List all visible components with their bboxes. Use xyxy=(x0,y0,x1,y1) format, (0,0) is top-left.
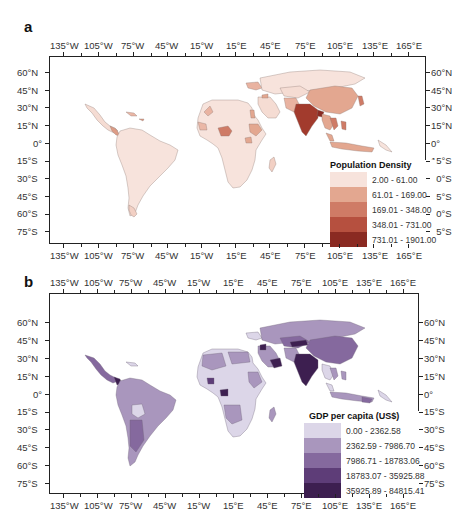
tick-mark xyxy=(419,483,423,484)
x-tick-label: 135°W xyxy=(50,277,79,288)
x-tick-label: 75°E xyxy=(291,277,312,288)
legend-swatch xyxy=(304,468,341,483)
y-tick-label: 30°N xyxy=(17,353,38,364)
tick-mark xyxy=(357,244,358,247)
x-tick-label: 105°E xyxy=(322,500,348,511)
tick-mark xyxy=(151,244,152,247)
x-tick-label: 15°W xyxy=(187,500,210,511)
x-tick-label: 75°W xyxy=(119,277,142,288)
panel-b-legend: GDP per capita (US$) 0.00 - 2362.58 2362… xyxy=(304,411,424,498)
x-tick-label: 75°E xyxy=(291,500,312,511)
tick-mark xyxy=(45,483,49,484)
tick-mark xyxy=(419,447,423,448)
legend-swatch xyxy=(304,453,341,468)
tick-mark xyxy=(45,72,49,73)
tick-mark xyxy=(131,289,132,293)
legend-label: 18783.07 - 35925.88 xyxy=(346,471,424,481)
tick-mark xyxy=(386,494,387,497)
tick-mark xyxy=(216,494,217,497)
tick-mark xyxy=(426,90,430,91)
y-tick-label: 60°S xyxy=(424,460,445,471)
tick-mark xyxy=(373,244,374,248)
x-tick-label: 45°E xyxy=(257,277,278,288)
tick-mark xyxy=(267,494,268,498)
tick-mark xyxy=(97,289,98,293)
tick-mark xyxy=(369,289,370,293)
x-tick-label: 45°W xyxy=(153,500,176,511)
tick-mark xyxy=(419,322,423,323)
tick-mark xyxy=(148,290,149,293)
tick-mark xyxy=(426,214,430,215)
tick-mark xyxy=(45,447,49,448)
tick-mark xyxy=(269,52,270,56)
tick-mark xyxy=(419,340,423,341)
tick-mark xyxy=(98,244,99,248)
tick-mark xyxy=(369,494,370,498)
x-tick-label: 75°W xyxy=(119,500,142,511)
tick-mark xyxy=(267,289,268,293)
tick-mark xyxy=(133,244,134,248)
tick-mark xyxy=(426,161,430,162)
tick-mark xyxy=(45,125,49,126)
tick-mark xyxy=(45,161,49,162)
tick-mark xyxy=(182,290,183,293)
tick-mark xyxy=(287,53,288,56)
tick-mark xyxy=(287,244,288,247)
tick-mark xyxy=(167,244,168,248)
tick-mark xyxy=(63,52,64,56)
tick-mark xyxy=(201,244,202,248)
legend-item: 2362.59 - 7986.70 xyxy=(304,438,424,453)
tick-mark xyxy=(148,494,149,497)
tick-mark xyxy=(335,289,336,293)
y-tick-label: 45°N xyxy=(424,335,445,346)
tick-mark xyxy=(63,494,64,498)
tick-mark xyxy=(391,53,392,56)
legend-label: 2362.59 - 7986.70 xyxy=(346,441,415,451)
y-tick-label: 30°S xyxy=(17,424,38,435)
legend-item: 7986.71 - 18783.06 xyxy=(304,453,424,468)
y-tick-label: 75°S xyxy=(17,478,38,489)
tick-mark xyxy=(116,244,117,247)
tick-mark xyxy=(318,494,319,497)
y-tick-label: 15°S xyxy=(17,406,38,417)
tick-mark xyxy=(352,290,353,293)
tick-mark xyxy=(114,494,115,497)
y-tick-label: 60°S xyxy=(17,460,38,471)
y-tick-label: 15°S xyxy=(424,406,445,417)
tick-mark xyxy=(80,494,81,497)
y-tick-label: 30°S xyxy=(424,424,445,435)
tick-mark xyxy=(301,289,302,293)
tick-mark xyxy=(357,53,358,56)
tick-mark xyxy=(45,196,49,197)
x-tick-label: 105°W xyxy=(84,277,113,288)
tick-mark xyxy=(199,289,200,293)
tick-mark xyxy=(426,125,430,126)
tick-mark xyxy=(235,244,236,248)
tick-mark xyxy=(250,290,251,293)
y-tick-label: 60°N xyxy=(17,317,38,328)
y-tick-label: 45°S xyxy=(424,442,445,453)
y-tick-label: 45°N xyxy=(17,335,38,346)
tick-mark xyxy=(403,494,404,498)
y-tick-label: 0° xyxy=(33,389,42,400)
tick-mark xyxy=(253,53,254,56)
tick-mark xyxy=(419,412,423,413)
tick-mark xyxy=(426,72,430,73)
tick-mark xyxy=(352,494,353,497)
tick-mark xyxy=(339,244,340,248)
tick-mark xyxy=(63,289,64,293)
x-tick-label: 15°W xyxy=(187,277,210,288)
legend-swatch xyxy=(304,423,341,438)
tick-mark xyxy=(419,358,423,359)
x-tick-label: 15°E xyxy=(223,500,244,511)
legend-item: 18783.07 - 35925.88 xyxy=(304,468,424,483)
legend-title: GDP per capita (US$) xyxy=(309,411,424,421)
tick-mark xyxy=(318,290,319,293)
x-tick-label: 15°E xyxy=(223,277,244,288)
tick-mark xyxy=(419,394,423,395)
tick-mark xyxy=(284,290,285,293)
tick-mark xyxy=(233,289,234,293)
legend-item: 0.00 - 2362.58 xyxy=(304,423,424,438)
tick-mark xyxy=(45,340,49,341)
tick-mark xyxy=(419,376,423,377)
